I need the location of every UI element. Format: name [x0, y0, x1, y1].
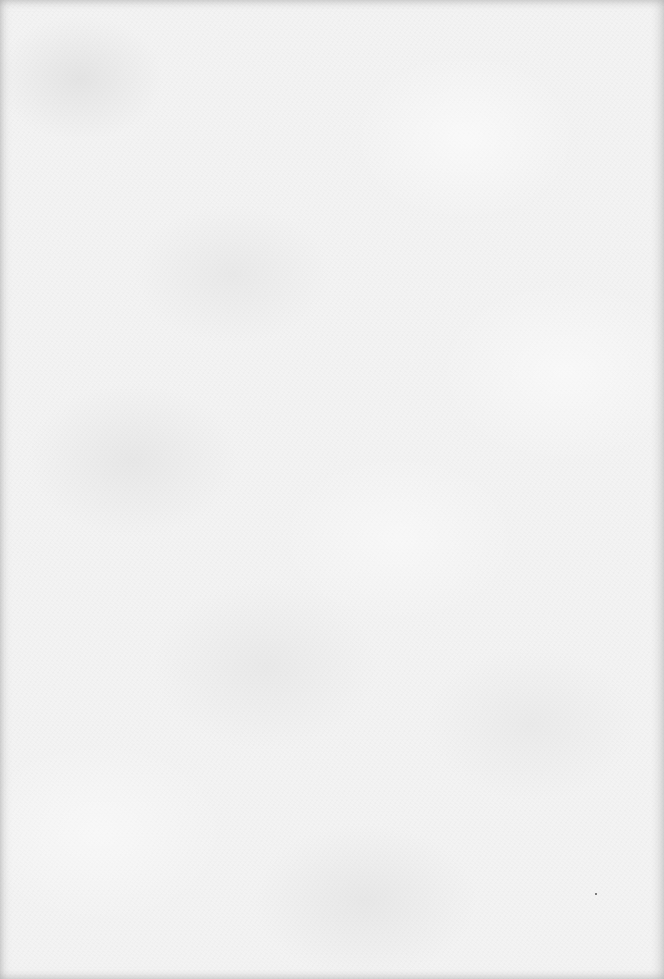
paper-texture [0, 0, 664, 979]
blank-paper-sheet [0, 0, 664, 979]
dust-speck [595, 893, 597, 895]
